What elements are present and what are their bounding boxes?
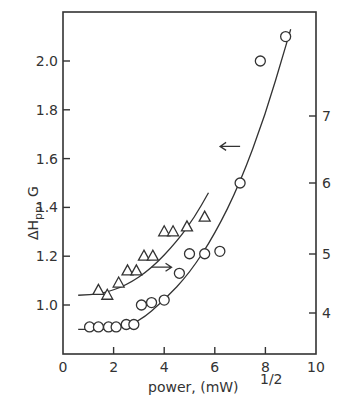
circle-marker	[281, 32, 291, 42]
y-axis-label-sub: pp	[32, 206, 45, 220]
fit-curve	[78, 193, 208, 295]
y-axis-label: ΔHpp, G	[25, 186, 45, 240]
circle-marker	[215, 246, 225, 256]
x-tick-label: 4	[160, 359, 169, 375]
chart: 0246810 1.01.21.41.61.82.0 4567 power, (…	[0, 0, 343, 405]
fit-curves	[78, 29, 291, 329]
circle-marker	[200, 249, 210, 259]
circle-marker	[136, 300, 146, 310]
left-y-tick-label: 1.8	[36, 102, 58, 118]
circle-marker	[129, 320, 139, 330]
fit-curve	[78, 29, 291, 329]
right-y-tick-label: 6	[322, 175, 331, 191]
plot-frame	[63, 12, 316, 354]
triangle-marker	[131, 265, 142, 275]
x-tick-label: 10	[307, 359, 325, 375]
left-y-tick-label: 2.0	[36, 53, 58, 69]
triangle-marker	[199, 211, 210, 221]
right-y-axis-ticks: 4567	[309, 108, 331, 321]
triangle-marker	[113, 277, 124, 287]
circle-marker	[255, 56, 265, 66]
svg-text:ΔHpp, G: ΔHpp, G	[25, 186, 45, 240]
triangle-marker	[93, 284, 104, 294]
arrow-left-icon	[220, 142, 240, 150]
x-tick-label: 6	[210, 359, 219, 375]
left-y-axis-ticks: 1.01.21.41.61.82.0	[36, 53, 70, 313]
circle-marker	[174, 268, 184, 278]
triangle-marker	[147, 250, 158, 260]
circle-marker	[235, 178, 245, 188]
axis-arrows	[152, 142, 241, 271]
left-y-tick-label: 1.2	[36, 248, 58, 264]
right-y-tick-label: 5	[322, 246, 331, 262]
circle-marker	[111, 322, 121, 332]
circle-marker	[159, 295, 169, 305]
triangle-marker	[168, 226, 179, 236]
left-y-tick-label: 1.0	[36, 297, 58, 313]
circle-marker	[185, 249, 195, 259]
circle-marker	[147, 298, 157, 308]
x-axis-label-superscript: 1/2	[260, 371, 283, 387]
data-points	[85, 32, 291, 332]
circle-marker	[93, 322, 103, 332]
right-y-tick-label: 4	[322, 305, 331, 321]
left-y-tick-label: 1.6	[36, 151, 58, 167]
y-axis-label-main: ΔH	[25, 220, 41, 240]
x-axis-ticks: 0246810	[59, 347, 325, 375]
x-axis-label: power, (mW)	[148, 379, 239, 395]
x-tick-label: 2	[109, 359, 118, 375]
y-axis-label-unit: , G	[25, 186, 41, 206]
x-tick-label: 0	[59, 359, 68, 375]
right-y-tick-label: 7	[322, 108, 331, 124]
